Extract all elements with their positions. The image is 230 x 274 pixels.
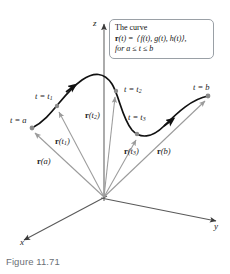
label-vector-r-of-b-rest: (b) (161, 146, 171, 156)
x-axis-line (24, 196, 107, 240)
callout-line-3: for a ≤ t ≤ b (115, 44, 209, 55)
label-vector-r-of-t2: r(t2) (85, 111, 100, 121)
label-t-equals-b: t = b (193, 83, 210, 92)
label-vector-r-of-t1: r(t1) (55, 137, 70, 147)
label-t-equals-t3: t = t3 (128, 113, 146, 123)
label-t-equals-t2-text: t = t (124, 84, 139, 94)
label-t-equals-t2: t = t2 (124, 85, 142, 95)
label-vector-r-of-a: r(a) (37, 157, 51, 166)
point-t-equals-b (206, 94, 211, 99)
z-axis-label: z (93, 19, 97, 28)
vector-r-of-b (104, 101, 205, 197)
label-vector-r-of-t3-tail: ) (136, 146, 139, 156)
callout-line-1: The curve (115, 23, 209, 34)
label-t-equals-t1: t = t1 (35, 92, 53, 102)
curve-definition-callout: The curve r(t) = ⟨ f(t), g(t), h(t)⟩, fo… (109, 19, 214, 59)
label-t-equals-t3-sub: 3 (143, 116, 146, 122)
callout-line-2-rest: (t) = ⟨ f(t), g(t), h(t)⟩, (119, 34, 187, 43)
label-t-equals-t2-sub: 2 (139, 88, 142, 94)
label-t-equals-t1-sub: 1 (50, 95, 53, 101)
figure-container: z y x t = a t = t1 t = t2 t = t3 t = b r… (0, 0, 230, 274)
figure-caption: Figure 11.71 (6, 256, 60, 267)
label-vector-r-of-t1-tail: ) (67, 136, 70, 146)
label-t-equals-t1-text: t = t (35, 91, 50, 101)
vector-r-of-t1 (59, 112, 104, 197)
point-t-equals-t3 (135, 132, 139, 136)
vector-r-of-t2 (104, 97, 115, 197)
label-vector-r-of-a-rest: (a) (41, 156, 51, 166)
label-t-equals-t3-text: t = t (128, 112, 143, 122)
label-t-equals-a: t = a (10, 116, 27, 125)
point-t-equals-t1 (55, 104, 59, 108)
label-vector-r-of-t2-tail: ) (97, 110, 100, 120)
curve-points-group (30, 89, 211, 136)
point-t-equals-t2 (114, 89, 118, 93)
y-axis-line (101, 198, 216, 221)
label-vector-r-of-t3: r(t3) (124, 147, 139, 157)
x-axis-label: x (20, 238, 24, 247)
point-t-equals-a (30, 126, 35, 131)
label-vector-r-of-b: r(b) (157, 147, 171, 156)
y-axis-label: y (214, 222, 218, 231)
callout-line-2: r(t) = ⟨ f(t), g(t), h(t)⟩, (115, 34, 209, 45)
